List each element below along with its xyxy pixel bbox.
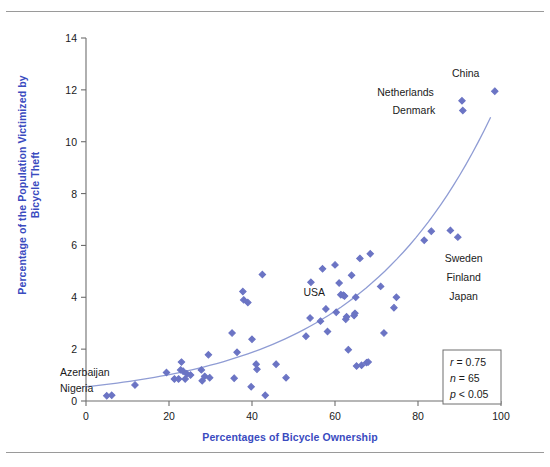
data-point	[447, 227, 453, 233]
data-point	[303, 333, 309, 339]
svg-text:10: 10	[65, 136, 77, 148]
data-point	[428, 228, 434, 234]
annotation-japan: Japan	[449, 290, 478, 302]
x-axis-tick-labels: 020406080100	[83, 410, 510, 422]
data-point	[178, 359, 184, 365]
annotation-nigeria: Nigeria	[60, 382, 93, 394]
data-point	[249, 336, 255, 342]
data-point-group	[104, 88, 498, 399]
data-point	[231, 375, 237, 381]
data-point	[283, 374, 289, 380]
annotation-china: China	[452, 67, 480, 79]
svg-text:2: 2	[71, 343, 77, 355]
svg-text:0: 0	[71, 395, 77, 407]
x-axis-label: Percentages of Bicycle Ownership	[150, 431, 430, 444]
data-point	[381, 330, 387, 336]
data-point	[345, 346, 351, 352]
data-point	[393, 294, 399, 300]
data-point	[460, 107, 466, 113]
data-point	[333, 309, 339, 315]
scatter-plot-figure: 02468101214 020406080100 ChinaNetherland…	[0, 12, 550, 450]
data-point	[205, 352, 211, 358]
data-point	[391, 304, 397, 310]
data-point	[262, 392, 268, 398]
svg-text:12: 12	[65, 84, 77, 96]
y-axis-ticks	[81, 38, 86, 401]
data-point	[492, 88, 498, 94]
svg-text:20: 20	[163, 410, 175, 422]
data-point	[132, 382, 138, 388]
annotation-netherlands: Netherlands	[377, 86, 434, 98]
stats-box: r= 0.75 n= 65 p< 0.05	[443, 350, 501, 404]
data-point	[229, 330, 235, 336]
svg-text:8: 8	[71, 188, 77, 200]
stats-n-line: n= 65	[450, 372, 480, 384]
svg-text:60: 60	[329, 410, 341, 422]
data-point	[336, 280, 342, 286]
annotation-usa: USA	[303, 286, 325, 298]
stats-p-line: p< 0.05	[449, 388, 488, 400]
x-axis-ticks	[86, 401, 501, 406]
data-point	[357, 255, 363, 261]
data-point	[323, 306, 329, 312]
data-point	[332, 262, 338, 268]
trend-line	[86, 117, 491, 387]
data-point	[459, 98, 465, 104]
data-point	[455, 234, 461, 240]
data-point	[273, 361, 279, 367]
svg-text:6: 6	[71, 239, 77, 251]
data-point	[240, 288, 246, 294]
data-point	[421, 237, 427, 243]
page-rule-bottom	[6, 452, 544, 453]
data-point	[319, 266, 325, 272]
data-point	[175, 376, 181, 382]
data-point	[324, 328, 330, 334]
annotation-denmark: Denmark	[393, 104, 436, 116]
data-point	[367, 251, 373, 257]
data-point	[109, 392, 115, 398]
data-point	[259, 271, 265, 277]
data-point	[248, 384, 254, 390]
svg-text:14: 14	[65, 32, 77, 44]
data-point	[308, 279, 314, 285]
plot-canvas: 02468101214 020406080100 ChinaNetherland…	[0, 12, 550, 450]
annotation-finland: Finland	[446, 271, 481, 283]
svg-text:4: 4	[71, 291, 77, 303]
data-point	[254, 366, 260, 372]
svg-text:40: 40	[246, 410, 258, 422]
data-point	[307, 315, 313, 321]
data-point	[234, 349, 240, 355]
y-axis-tick-labels: 02468101214	[65, 32, 77, 407]
svg-text:0: 0	[83, 410, 89, 422]
svg-text:80: 80	[412, 410, 424, 422]
y-axis-label: Percentage of the Population Victimized …	[16, 70, 42, 300]
annotation-sweden: Sweden	[445, 252, 483, 264]
annotation-azerbaijan: Azerbaijan	[60, 366, 110, 378]
data-point	[348, 272, 354, 278]
svg-text:100: 100	[492, 410, 510, 422]
data-point	[377, 283, 383, 289]
